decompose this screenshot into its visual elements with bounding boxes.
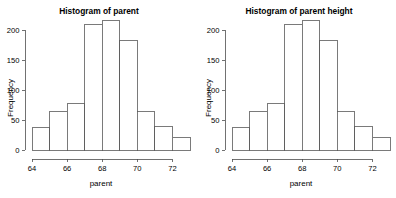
- x-axis-tick-label: 68: [98, 164, 106, 173]
- histogram-bar: [50, 112, 68, 150]
- histogram-bar: [302, 20, 320, 150]
- histogram-bar: [355, 126, 373, 150]
- y-axis-tick-label: 100: [7, 86, 20, 95]
- figure-canvas: Histogram of parent Frequency parent 050…: [0, 0, 396, 198]
- y-axis-tick-label: 0: [215, 146, 219, 155]
- histogram-bar: [85, 25, 103, 150]
- histogram-bar: [267, 104, 285, 150]
- y-axis-tick-label: 50: [211, 116, 219, 125]
- histogram-bars: [32, 20, 190, 150]
- x-axis: 6466687072: [28, 159, 177, 173]
- plot-title: Histogram of parent: [59, 6, 139, 16]
- histogram-bar: [67, 104, 85, 150]
- histogram-bar: [155, 126, 173, 150]
- histogram-panel-right: Histogram of parent height Frequency par…: [198, 0, 396, 198]
- x-axis-title: parent: [90, 179, 113, 188]
- y-axis-tick-label: 150: [7, 56, 20, 65]
- histogram-bar: [32, 128, 50, 150]
- histogram-bar: [172, 137, 190, 150]
- x-axis-tick-label: 66: [263, 164, 271, 173]
- x-axis: 6466687072: [228, 159, 377, 173]
- histogram-plot-parent-height: Histogram of parent height Frequency par…: [198, 0, 396, 198]
- histogram-bar: [120, 41, 138, 150]
- histogram-bar: [250, 112, 268, 150]
- x-axis-tick-label: 68: [298, 164, 306, 173]
- y-axis-tick-label: 200: [7, 26, 20, 35]
- y-axis-tick-label: 100: [207, 86, 220, 95]
- y-axis-tick-label: 200: [207, 26, 220, 35]
- y-axis-title: Frequency: [204, 79, 213, 117]
- histogram-bar: [320, 41, 338, 150]
- histogram-plot-parent: Histogram of parent Frequency parent 050…: [0, 0, 198, 198]
- y-axis: 050100150200: [7, 26, 25, 155]
- histogram-bar: [232, 128, 250, 150]
- x-axis-tick-label: 72: [168, 164, 176, 173]
- plot-title: Histogram of parent height: [245, 6, 352, 16]
- y-axis-title: Frequency: [6, 79, 15, 117]
- x-axis-tick-label: 66: [63, 164, 71, 173]
- x-axis-tick-label: 70: [333, 164, 341, 173]
- y-axis: 050100150200: [207, 26, 225, 155]
- y-axis-tick-label: 0: [15, 146, 19, 155]
- histogram-panel-left: Histogram of parent Frequency parent 050…: [0, 0, 198, 198]
- x-axis-tick-label: 72: [368, 164, 376, 173]
- histogram-bar: [137, 112, 155, 150]
- histogram-bar: [285, 25, 303, 150]
- x-axis-tick-label: 64: [228, 164, 236, 173]
- x-axis-tick-label: 64: [28, 164, 36, 173]
- histogram-bar: [372, 137, 390, 150]
- y-axis-tick-label: 150: [207, 56, 220, 65]
- x-axis-title: parent: [290, 179, 313, 188]
- histogram-bar: [102, 20, 120, 150]
- histogram-bar: [337, 112, 355, 150]
- x-axis-tick-label: 70: [133, 164, 141, 173]
- histogram-bars: [232, 20, 390, 150]
- y-axis-tick-label: 50: [11, 116, 19, 125]
